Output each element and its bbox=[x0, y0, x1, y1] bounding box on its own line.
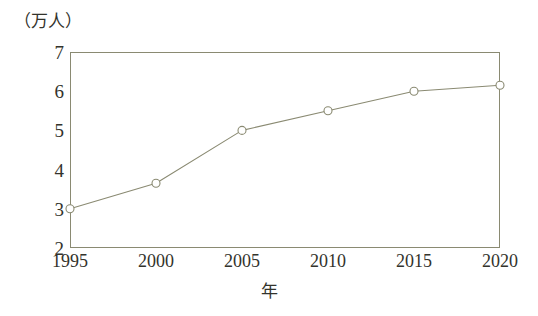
x-tick-label-1995: 1995 bbox=[30, 252, 110, 270]
plot-area-frame bbox=[70, 52, 500, 248]
x-tick-label-2015: 2015 bbox=[374, 252, 454, 270]
x-tick-label-2000: 2000 bbox=[116, 252, 196, 270]
x-tick-label-2005: 2005 bbox=[202, 252, 282, 270]
x-tick-label-2020: 2020 bbox=[460, 252, 538, 270]
y-tick-label-3: 3 bbox=[36, 199, 64, 218]
y-tick-label-7: 7 bbox=[36, 43, 64, 62]
line-chart-figure: （万人） 2 3 4 5 6 7 1995 2000 2005 2010 201… bbox=[0, 0, 538, 316]
y-tick-label-5: 5 bbox=[36, 121, 64, 140]
x-axis-title: 年 bbox=[0, 283, 538, 300]
x-tick-label-2010: 2010 bbox=[288, 252, 368, 270]
y-tick-label-6: 6 bbox=[36, 82, 64, 101]
y-tick-label-4: 4 bbox=[36, 160, 64, 179]
